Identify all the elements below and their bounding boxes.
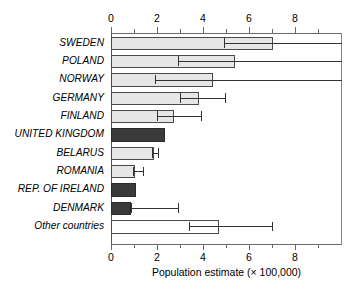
error-bar-cap-high <box>178 203 179 213</box>
error-bar-line <box>180 98 225 99</box>
x-tick-top-4 <box>203 27 204 33</box>
x-tick-label-bot-6: 6 <box>238 251 260 263</box>
x-tick-label-top-2: 2 <box>146 12 168 24</box>
error-bar-cap-high <box>158 148 159 158</box>
chart-row: NORWAY <box>0 71 356 89</box>
x-tick-label-bot-8: 8 <box>284 251 306 263</box>
x-minor-tick-bot-1 <box>134 244 135 248</box>
error-bar-line <box>224 43 342 44</box>
x-tick-label-bot-2: 2 <box>146 251 168 263</box>
chart-row: UNITED KINGDOM <box>0 126 356 144</box>
chart-row: BELARUS <box>0 145 356 163</box>
error-bar-cap-low <box>189 222 190 232</box>
error-bar-cap-high <box>225 93 226 103</box>
error-bar-cap-low <box>224 38 225 48</box>
x-tick-bot-8 <box>295 244 296 250</box>
x-minor-tick-bot-7 <box>272 244 273 248</box>
bar <box>111 165 135 179</box>
error-bar-cap-low <box>180 93 181 103</box>
x-tick-top-6 <box>249 27 250 33</box>
error-bar-cap-low <box>152 148 153 158</box>
category-label: BELARUS <box>0 147 104 158</box>
error-bar-line <box>157 116 201 117</box>
category-label: DENMARK <box>0 202 104 213</box>
bar-chart: 0022446688 SWEDENPOLANDNORWAYGERMANYFINL… <box>0 0 356 288</box>
bar <box>111 147 154 161</box>
category-label: REP. OF IRELAND <box>0 183 104 194</box>
x-tick-top-8 <box>295 27 296 33</box>
x-minor-tick-top-3 <box>180 29 181 33</box>
x-minor-tick-top-5 <box>226 29 227 33</box>
x-tick-bot-2 <box>157 244 158 250</box>
error-bar-line <box>155 80 342 81</box>
chart-row: ROMANIA <box>0 163 356 181</box>
x-axis-title: Population estimate (× 100,000) <box>111 266 342 278</box>
error-bar-line <box>189 226 272 227</box>
error-bar-cap-low <box>131 203 132 213</box>
x-tick-bot-4 <box>203 244 204 250</box>
category-label: Other countries <box>0 220 104 231</box>
error-bar-cap-high <box>272 222 273 232</box>
error-bar-cap-low <box>155 75 156 85</box>
x-tick-top-2 <box>157 27 158 33</box>
category-label: SWEDEN <box>0 37 104 48</box>
error-bar-cap-low <box>133 167 134 177</box>
chart-row: POLAND <box>0 53 356 71</box>
chart-row: DENMARK <box>0 200 356 218</box>
x-tick-label-top-4: 4 <box>192 12 214 24</box>
x-tick-bot-6 <box>249 244 250 250</box>
error-bar-line <box>133 171 143 172</box>
error-bar-cap-low <box>178 56 179 66</box>
category-label: UNITED KINGDOM <box>0 128 104 139</box>
bar <box>111 183 136 197</box>
category-label: GERMANY <box>0 92 104 103</box>
x-tick-label-bot-4: 4 <box>192 251 214 263</box>
error-bar-cap-low <box>157 111 158 121</box>
x-minor-tick-top-7 <box>272 29 273 33</box>
error-bar-line <box>131 208 178 209</box>
error-bar-line <box>178 61 342 62</box>
bar <box>111 128 165 142</box>
x-minor-tick-bot-3 <box>180 244 181 248</box>
x-tick-label-top-6: 6 <box>238 12 260 24</box>
x-tick-bot-0 <box>111 244 112 250</box>
x-minor-tick-bot-5 <box>226 244 227 248</box>
x-tick-label-bot-0: 0 <box>100 251 122 263</box>
x-tick-label-top-0: 0 <box>100 12 122 24</box>
category-label: NORWAY <box>0 73 104 84</box>
x-minor-tick-top-1 <box>134 29 135 33</box>
x-minor-tick-bot-9 <box>318 244 319 248</box>
chart-row: SWEDEN <box>0 35 356 53</box>
chart-row: GERMANY <box>0 90 356 108</box>
error-bar-cap-high <box>143 167 144 177</box>
chart-row: FINLAND <box>0 108 356 126</box>
category-label: FINLAND <box>0 110 104 121</box>
chart-row: REP. OF IRELAND <box>0 181 356 199</box>
x-tick-top-0 <box>111 27 112 33</box>
error-bar-cap-high <box>201 111 202 121</box>
bar <box>111 202 131 216</box>
chart-row: Other countries <box>0 218 356 236</box>
x-tick-label-top-8: 8 <box>284 12 306 24</box>
category-label: POLAND <box>0 55 104 66</box>
category-label: ROMANIA <box>0 165 104 176</box>
x-minor-tick-top-9 <box>318 29 319 33</box>
